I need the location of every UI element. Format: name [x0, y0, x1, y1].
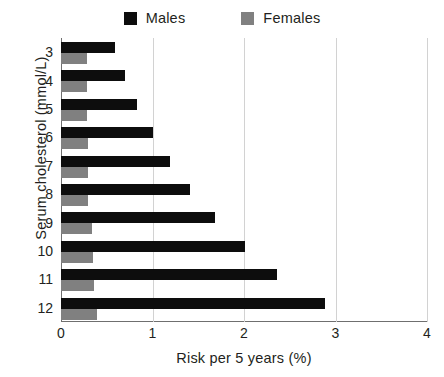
bar-females [61, 167, 88, 178]
x-axis-title: Risk per 5 years (%) [61, 350, 427, 366]
x-axis-tick-labels: 01234 [61, 326, 427, 344]
legend-label: Females [263, 10, 320, 26]
bar-males [61, 99, 137, 110]
bar-group [61, 294, 427, 322]
bar-group [61, 265, 427, 293]
square-marker-icon [241, 12, 254, 25]
bar-males [61, 42, 115, 53]
bar-group [61, 208, 427, 236]
y-tick-11: 11 [1, 272, 53, 286]
bar-males [61, 127, 153, 138]
bar-females [61, 81, 87, 92]
plot-area [61, 38, 427, 322]
bar-group [61, 38, 427, 66]
x-tick-0: 0 [57, 326, 65, 340]
bar-males [61, 212, 215, 223]
x-tick-2: 2 [240, 326, 248, 340]
bar-males [61, 241, 245, 252]
bar-group [61, 123, 427, 151]
bar-females [61, 53, 87, 64]
x-tick-1: 1 [149, 326, 157, 340]
bar-group [61, 237, 427, 265]
legend-label: Males [146, 10, 186, 26]
bar-females [61, 309, 97, 320]
bar-females [61, 252, 93, 263]
bar-males [61, 70, 125, 81]
y-axis-title: Serum cholesterol (mmol/L) [33, 23, 49, 273]
bar-males [61, 156, 170, 167]
x-tick-3: 3 [332, 326, 340, 340]
bar-females [61, 223, 92, 234]
legend-item-males: Males [124, 10, 186, 26]
bar-males [61, 184, 190, 195]
bar-group [61, 95, 427, 123]
bar-group [61, 152, 427, 180]
gridline-x-4 [427, 38, 428, 322]
bar-group [61, 66, 427, 94]
bar-males [61, 298, 325, 309]
bar-chart: MalesFemales 3456789101112 01234 Serum c… [0, 0, 444, 377]
bar-females [61, 280, 94, 291]
bar-females [61, 110, 87, 121]
square-marker-icon [124, 12, 137, 25]
legend-item-females: Females [241, 10, 320, 26]
bar-females [61, 138, 88, 149]
x-tick-4: 4 [423, 326, 431, 340]
bar-group [61, 180, 427, 208]
bar-males [61, 269, 277, 280]
y-tick-12: 12 [1, 301, 53, 315]
bar-females [61, 195, 88, 206]
chart-legend: MalesFemales [0, 7, 444, 29]
